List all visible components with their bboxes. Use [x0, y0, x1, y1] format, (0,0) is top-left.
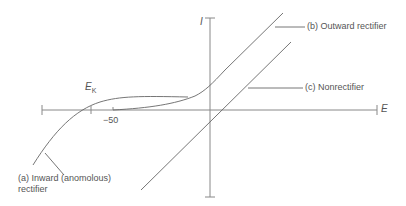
- minus50-label: −50: [103, 115, 118, 126]
- nonrectifier-label: (c) Nonrectifier: [305, 82, 364, 93]
- nonrectifier-line: [141, 42, 291, 190]
- y-axis-label: I: [200, 16, 203, 27]
- inward-rectifier-label: (a) Inward (anomolous) rectifier: [18, 173, 111, 195]
- outward-rectifier-curve: [113, 13, 283, 110]
- i-axis: [205, 18, 215, 197]
- x-axis-label: E: [381, 103, 388, 114]
- ek-label: EK: [85, 81, 96, 94]
- outward-rectifier-label: (b) Outward rectifier: [307, 21, 387, 32]
- leader-line-a: [45, 153, 64, 175]
- inward-rectifier-curve: [33, 97, 188, 165]
